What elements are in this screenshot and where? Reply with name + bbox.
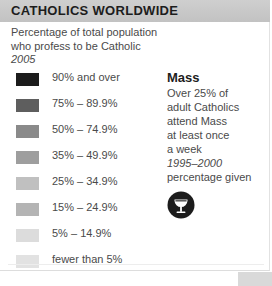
legend-item-label: 25% – 34.9% [52,175,117,187]
mass-years: 1995–2000 [167,156,267,170]
mass-line-2: adult Catholics [167,101,239,113]
chalice-icon [167,191,195,219]
panel-header-bar: CATHOLICS WORLDWIDE [0,0,270,22]
legend-item-label: 75% – 89.9% [52,97,117,109]
subtitle-year: 2005 [11,53,171,67]
mass-line-4: at least once [167,129,229,141]
legend-item-label: 15% – 24.9% [52,201,117,213]
subtitle-line-2: who profess to be Catholic [11,40,141,52]
legend-swatch [16,177,39,190]
legend-item: 90% and over [0,70,160,96]
legend-item: 15% – 24.9% [0,200,160,226]
legend-swatch [16,125,39,138]
legend-item-label: 50% – 74.9% [52,123,117,135]
legend-item-label: 90% and over [52,71,120,83]
mass-info-block: Mass Over 25% of adult Catholics attend … [167,70,267,219]
legend-swatch [16,99,39,112]
mass-line-5: a week [167,143,202,155]
panel-bottom-divider [8,264,264,265]
legend-swatch [16,151,39,164]
legend: 90% and over75% – 89.9%50% – 74.9%35% – … [0,70,160,278]
legend-item: 25% – 34.9% [0,174,160,200]
subtitle-line-1: Percentage of total population [11,26,157,38]
mass-line-3: attend Mass [167,115,227,127]
mass-note: percentage given [167,170,267,184]
legend-swatch [16,203,39,216]
panel-subtitle: Percentage of total population who profe… [11,26,171,67]
mass-heading: Mass [167,70,267,85]
legend-item: 5% – 14.9% [0,226,160,252]
mass-line-1: Over 25% of [167,87,228,99]
legend-item: 35% – 49.9% [0,148,160,174]
legend-swatch [16,255,39,268]
legend-item-label: 35% – 49.9% [52,149,117,161]
page-title: CATHOLICS WORLDWIDE [11,3,178,18]
map-legend-panel: CATHOLICS WORLDWIDE Percentage of total … [0,0,270,271]
legend-item: 75% – 89.9% [0,96,160,122]
corner-accent-block [238,272,272,286]
legend-item: 50% – 74.9% [0,122,160,148]
legend-swatch [16,229,39,242]
legend-item-label: 5% – 14.9% [52,227,111,239]
legend-swatch [16,73,39,86]
mass-description: Over 25% of adult Catholics attend Mass … [167,86,267,156]
legend-item: fewer than 5% [0,252,160,278]
